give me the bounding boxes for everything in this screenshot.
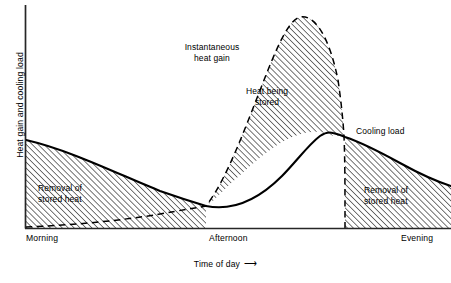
annotation-heat-being-stored: Heat being stored [236, 86, 298, 107]
annotation-removal-stored-heat-left: Removal of stored heat [38, 183, 110, 204]
chart-figure: Heat gain and cooling load Instantaneous… [0, 0, 451, 283]
y-axis-title: Heat gain and cooling load [15, 45, 25, 165]
x-axis-title: Time of day [194, 259, 240, 269]
annotation-removal-stored-heat-right: Removal of stored heat [364, 185, 436, 206]
x-axis-arrow-icon: ⟶ [244, 258, 257, 268]
x-axis-title-row: Time of day⟶ [0, 258, 451, 269]
x-tick-morning: Morning [26, 233, 58, 243]
x-tick-evening: Evening [401, 233, 433, 243]
annotation-cooling-load: Cooling load [356, 126, 422, 137]
x-tick-afternoon: Afternoon [209, 233, 248, 243]
annotation-instantaneous-heat-gain: Instantaneous heat gain [170, 42, 254, 63]
